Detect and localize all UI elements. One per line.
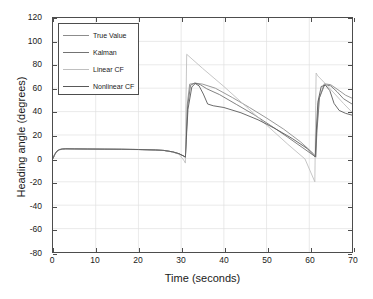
chart-legend: True Value Kalman Linear CF Nonlinear CF	[58, 23, 139, 95]
legend-label-kalman: Kalman	[93, 49, 117, 56]
legend-item-true-value: True Value	[59, 27, 138, 44]
legend-item-nonlinear-cf: Nonlinear CF	[59, 78, 138, 95]
legend-swatch-true-value	[63, 35, 89, 36]
x-axis-title: Time (seconds)	[52, 272, 353, 284]
x-tick-label: 20	[133, 256, 142, 265]
legend-swatch-kalman	[63, 52, 89, 53]
x-tick-label: 10	[90, 256, 99, 265]
x-tick-label: 0	[50, 256, 55, 265]
legend-label-linear-cf: Linear CF	[93, 66, 124, 73]
x-tick-label: 50	[262, 256, 271, 265]
x-tick-label: 40	[219, 256, 228, 265]
x-tick-label: 70	[348, 256, 357, 265]
legend-swatch-nonlinear-cf	[63, 86, 89, 87]
x-tick-label: 60	[305, 256, 314, 265]
x-tick-label: 30	[176, 256, 185, 265]
legend-label-true-value: True Value	[93, 32, 126, 39]
legend-item-kalman: Kalman	[59, 44, 138, 61]
legend-swatch-linear-cf	[63, 69, 89, 70]
y-axis-title: Heading angle (degrees)	[15, 19, 27, 255]
legend-item-linear-cf: Linear CF	[59, 61, 138, 78]
legend-label-nonlinear-cf: Nonlinear CF	[93, 83, 134, 90]
chart-figure: -80-60-40-20020406080100120 010203040506…	[0, 0, 373, 299]
